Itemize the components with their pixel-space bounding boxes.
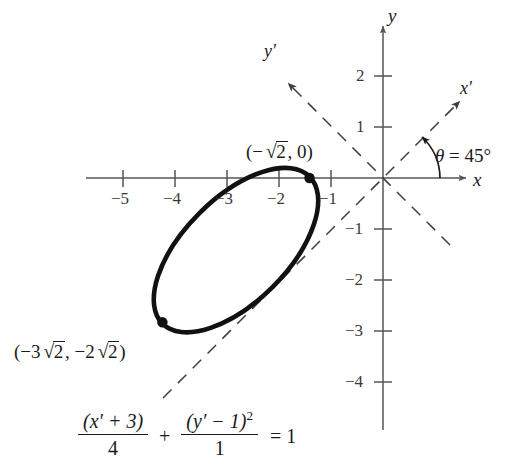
label-point-lower-left: (−3√2, −2√2) (14, 341, 126, 361)
x-tick-label-neg5: −5 (111, 190, 129, 207)
x-tick-label-neg2: −2 (267, 190, 285, 207)
second-numerator: (y′ − 1)2 (181, 410, 258, 434)
x-axis-label: x (473, 170, 481, 189)
x-axis (86, 170, 466, 187)
y-prime-axis-label: y′ (264, 42, 276, 60)
second-numerator-exponent: 2 (246, 408, 253, 423)
conic-figure: x y y′ x′ −5 −4 −3 −2 −1 2 1 −1 −2 −3 −4… (0, 0, 515, 474)
point-suffix: , 0) (288, 141, 313, 162)
ellipse-curve (126, 140, 347, 361)
plus-operator: + (159, 423, 170, 448)
radicand: 2 (276, 141, 288, 161)
point-lead: (−3 (14, 341, 41, 362)
theta-symbol: θ (435, 145, 444, 166)
point-vertex-lower-left (157, 317, 167, 327)
point-prefix: (− (246, 141, 263, 162)
y-axis-label: y (388, 6, 396, 25)
conic-equation: (x′ + 3) 4 + (y′ − 1)2 1 = 1 (76, 410, 296, 460)
x-tick-label-neg1: −1 (319, 190, 337, 207)
radicand: 2 (53, 341, 65, 361)
label-point-upper-right: (−√2, 0) (246, 141, 313, 161)
first-denominator: 4 (108, 435, 118, 460)
equation-right-side: = 1 (270, 423, 296, 448)
y-axis (374, 26, 392, 430)
y-tick-label-neg1: −1 (345, 220, 363, 237)
second-fraction: (y′ − 1)2 1 (181, 410, 258, 460)
y-tick-label-2: 2 (356, 67, 365, 84)
x-tick-label-neg3: −3 (215, 190, 233, 207)
theta-angle-label: θ = 45° (435, 146, 491, 165)
y-tick-label-neg3: −3 (345, 322, 363, 339)
sqrt-group-second: √2 (95, 341, 119, 361)
equals-sign: = (449, 145, 460, 166)
x-tick-label-neg4: −4 (163, 190, 181, 207)
y-prime-axis (288, 83, 450, 245)
sqrt-group-first: √2 (41, 341, 65, 361)
y-tick-label-neg2: −2 (345, 271, 363, 288)
y-tick-label-neg4: −4 (345, 373, 363, 390)
y-tick-label-1: 1 (356, 118, 365, 135)
first-numerator: (x′ + 3) (78, 410, 148, 434)
second-numerator-base: (y′ − 1) (186, 410, 246, 432)
angle-value: 45° (465, 145, 492, 166)
point-mid: , −2 (65, 341, 95, 362)
plot-canvas (0, 0, 515, 474)
sqrt-group: √2 (263, 141, 287, 161)
point-tail: ) (119, 341, 125, 362)
first-fraction: (x′ + 3) 4 (78, 410, 148, 460)
point-vertex-upper-right (304, 173, 314, 183)
radicand: 2 (108, 341, 120, 361)
second-denominator: 1 (215, 435, 225, 460)
x-prime-axis-label: x′ (460, 79, 472, 97)
